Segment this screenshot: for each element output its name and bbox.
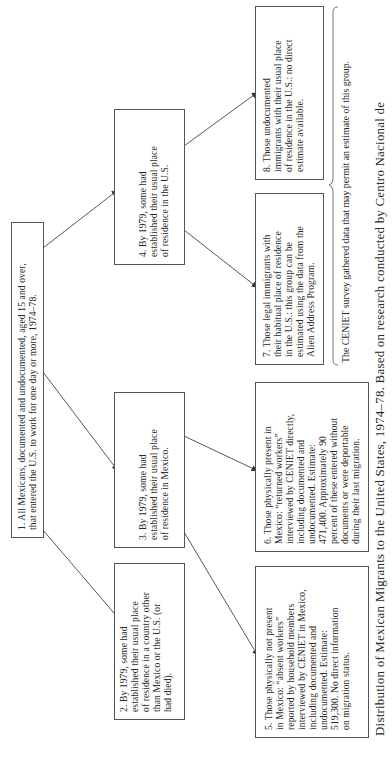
arrow-4-to-7: [184, 230, 258, 288]
node-7-line: estimated using the data from the: [294, 199, 305, 357]
node-6-line: during their last migration.: [350, 388, 361, 544]
node-8-line: of residence in the U.S.: no direct: [283, 12, 294, 172]
node-7-legal-immigrants: 7. Those legal immigrants with their hab…: [255, 193, 324, 365]
node-8-line: estimate available.: [294, 12, 305, 172]
node-2-residence-other-country: 2. By 1979, some had established their u…: [114, 563, 185, 720]
node-5-line: on migration status.: [340, 572, 351, 730]
node-7-line: Alien Address Program.: [305, 199, 316, 357]
node-6-line: including documented and: [295, 388, 306, 544]
rotated-diagram-page: 1. All Mexicans, documented and undocume…: [0, 0, 392, 758]
node-8-line: 8. Those undocumented: [261, 12, 272, 172]
node-2-line: had died).: [162, 569, 173, 712]
node-4-residence-us: 4. By 1979, some had established their u…: [114, 109, 185, 265]
node-2-line: established their usual place: [129, 569, 140, 712]
node-1-line-2: that entered the U.S. to work for one da…: [27, 228, 38, 530]
node-3-line: established their usual place: [148, 398, 159, 540]
node-4-line: established their usual place: [148, 115, 159, 257]
arrow-4-to-8: [184, 92, 258, 146]
node-6-line: documents or were deportable: [339, 388, 350, 544]
node-3-line: 3. By 1979, some had: [137, 398, 148, 540]
node-6-returned-workers: 6. Those physically present in Mexico: “…: [255, 382, 369, 552]
node-5-line: undocumented. Estimate:: [318, 572, 329, 730]
node-1-line-1: 1. All Mexicans, documented and undocume…: [16, 228, 27, 530]
node-6-line: interviewed by CENIET directly,: [284, 388, 295, 544]
brace-note: The CENIET survey gathered data that may…: [340, 61, 351, 363]
arrow-1-to-4: [43, 190, 118, 248]
arrow-3-to-5: [184, 532, 258, 656]
node-4-line: 4. By 1979, some had: [137, 115, 148, 257]
node-5-line: interviewed by CENIET in Mexico,: [296, 572, 307, 730]
node-6-line: 471,400. Approximately 90: [317, 388, 328, 544]
node-2-line: than Mexico or the U.S. (or: [151, 569, 162, 712]
node-2-line: of residence in a country other: [140, 569, 151, 712]
node-7-line: 7. Those legal immigrants with: [261, 199, 272, 357]
node-4-line: of residence in the U.S.: [159, 115, 170, 257]
node-8-line: immigrants with their usual place: [272, 12, 283, 172]
node-6-line: Mexico: “returned workers”: [273, 388, 284, 544]
grouping-brace: [329, 7, 338, 365]
node-3-line: of residence in Mexico.: [159, 398, 170, 540]
node-1-all-mexican-migrants: 1. All Mexicans, documented and undocume…: [11, 222, 44, 538]
node-8-undocumented-immigrants: 8. Those undocumented immigrants with th…: [255, 6, 324, 180]
node-5-absent-workers: 5. Those physically not present in Mexic…: [255, 566, 369, 738]
arrow-1-to-3: [43, 372, 118, 471]
node-6-line: 6. Those physically present in: [262, 388, 273, 544]
figure-caption: Distribution of Mexican Migrants to the …: [372, 102, 388, 736]
node-6-line: percent of these entered without: [328, 388, 339, 544]
node-6-line: undocumented. Estimate:: [306, 388, 317, 544]
node-5-line: reported by household members: [285, 572, 296, 730]
node-2-line: 2. By 1979, some had: [118, 569, 129, 712]
arrow-3-to-6: [184, 436, 258, 471]
node-5-line: 5. Those physically not present: [263, 572, 274, 730]
node-3-residence-mexico: 3. By 1979, some had established their u…: [114, 392, 185, 548]
node-5-line: including documented and: [307, 572, 318, 730]
node-5-line: 519,300. No direct information: [329, 572, 340, 730]
node-7-line: their habitual place of residence: [272, 199, 283, 357]
node-5-line: in Mexico: “absent workers”: [274, 572, 285, 730]
node-7-line: in the U.S.: this group can be: [283, 199, 294, 357]
